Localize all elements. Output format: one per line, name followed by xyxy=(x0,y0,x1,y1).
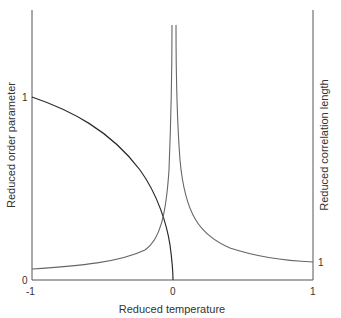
correlation-length-curve-left xyxy=(32,25,172,269)
right-y-tick-1: 1 xyxy=(318,257,324,268)
x-axis-label: Reduced temperature xyxy=(119,303,225,315)
x-tick-0: 0 xyxy=(170,286,176,297)
left-y-axis-label: Reduced order parameter xyxy=(5,82,17,208)
right-y-axis-label: Reduced correlation length xyxy=(318,79,330,210)
left-y-tick-0: 0 xyxy=(22,275,28,286)
correlation-length-curve-right xyxy=(176,25,313,262)
x-tick-minus-1: -1 xyxy=(26,286,35,297)
phase-transition-chart: 1 0 1 -1 0 1 Reduced temperature Reduced… xyxy=(0,0,341,318)
order-parameter-curve xyxy=(32,97,173,280)
x-tick-1: 1 xyxy=(310,286,316,297)
left-y-tick-1: 1 xyxy=(22,92,28,103)
